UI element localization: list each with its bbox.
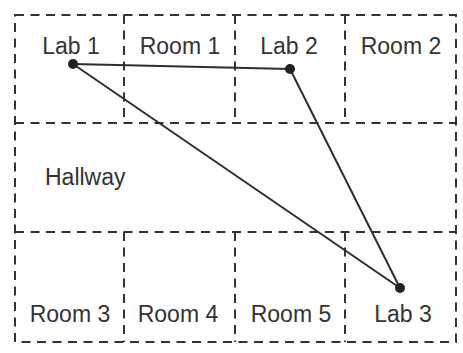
node-lab2 xyxy=(285,64,295,74)
label-lab1: Lab 1 xyxy=(42,33,100,59)
label-room2: Room 2 xyxy=(361,33,442,59)
label-room4: Room 4 xyxy=(138,301,219,327)
node-lab1 xyxy=(68,59,78,69)
node-lab3 xyxy=(395,283,405,293)
edge-lab1-lab2 xyxy=(73,64,290,69)
label-lab2: Lab 2 xyxy=(260,33,318,59)
floor-plan-diagram: Lab 1 Room 1 Lab 2 Room 2 Hallway Room 3… xyxy=(0,0,463,353)
label-room5: Room 5 xyxy=(251,301,332,327)
label-lab3: Lab 3 xyxy=(374,301,432,327)
label-hallway: Hallway xyxy=(45,164,126,190)
label-room1: Room 1 xyxy=(140,33,221,59)
label-room3: Room 3 xyxy=(30,301,111,327)
diagram-svg: Lab 1 Room 1 Lab 2 Room 2 Hallway Room 3… xyxy=(0,0,463,353)
